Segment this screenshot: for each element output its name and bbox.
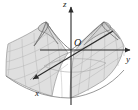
- x-axis-label: x: [35, 89, 39, 98]
- surface-figure: z y x O: [0, 0, 138, 110]
- surface-patch-left: [6, 22, 68, 96]
- surface-figure-canvas: [0, 0, 138, 110]
- origin-label: O: [74, 38, 81, 48]
- z-axis-label: z: [63, 0, 67, 9]
- y-axis-label: y: [126, 55, 130, 64]
